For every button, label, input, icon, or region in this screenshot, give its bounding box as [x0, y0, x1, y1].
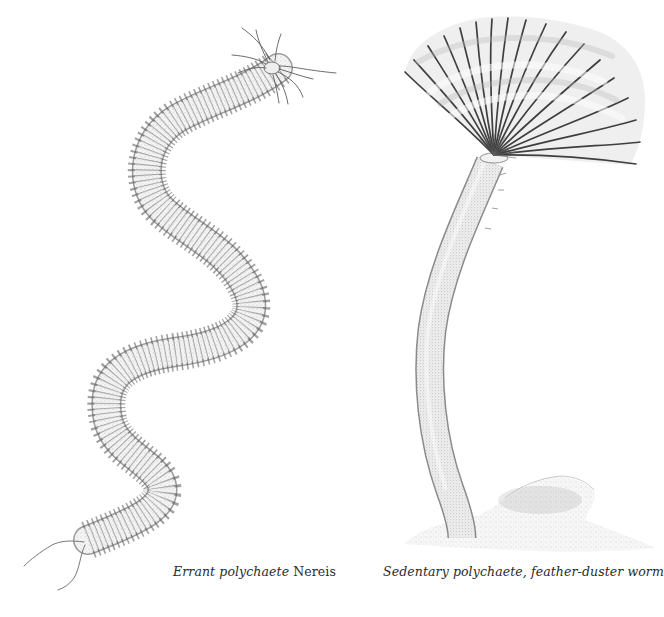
caption-errant-polychaete: Errant polychaete Nereis: [173, 564, 336, 579]
caption-sedentary-polychaete: Sedentary polychaete, feather-duster wor…: [383, 564, 664, 579]
feather-duster-crown: [405, 17, 645, 165]
feather-duster-tube: [426, 162, 506, 538]
caption-errant-roman: Nereis: [289, 564, 336, 579]
caption-sedentary-italic: Sedentary polychaete, feather-duster wor…: [383, 564, 664, 579]
caption-errant-italic: Errant polychaete: [173, 564, 289, 579]
